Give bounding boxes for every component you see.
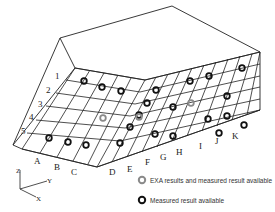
measured-point-ring-icon [99, 84, 105, 90]
row-labels: 1 2 3 4 5 [21, 71, 60, 136]
measured-point-ring-icon [170, 133, 176, 139]
axis-label-z: Z [16, 167, 20, 175]
row-label-3: 3 [38, 99, 43, 109]
axis-label-x: X [36, 195, 41, 203]
measured-point-ring-icon [153, 87, 159, 93]
measured-point-ring-icon [81, 78, 87, 84]
measured-point-ring-icon [144, 100, 150, 106]
measured-point-ring-icon [187, 78, 193, 84]
col-label-e: E [127, 164, 133, 174]
col-label-j: J [215, 136, 219, 146]
row-label-2: 2 [46, 85, 51, 95]
col-label-d: D [109, 167, 116, 177]
exa-points [100, 100, 194, 121]
legend-label-exa: EXA results and measured result availabl… [150, 177, 273, 184]
measured-point-ring-icon [216, 130, 222, 136]
row-label-4: 4 [29, 112, 34, 122]
gray-ring-icon [139, 177, 145, 183]
measured-point-ring-icon [117, 140, 123, 146]
measured-point-ring-icon [152, 131, 158, 137]
measured-point-ring-icon [224, 113, 230, 119]
axis-label-y: Y [47, 177, 52, 185]
legend: EXA results and measured result availabl… [139, 177, 273, 204]
measured-point-ring-icon [118, 88, 124, 94]
measured-point-ring-icon [241, 122, 247, 128]
measured-point-ring-icon [83, 142, 89, 148]
exa-point-ring-icon [100, 115, 106, 121]
col-label-i: I [199, 141, 202, 151]
measured-point-ring-icon [65, 139, 71, 145]
col-label-c: C [71, 167, 77, 177]
col-label-k: K [232, 131, 239, 141]
col-label-b: B [54, 162, 60, 172]
block-diagram: 1 2 3 4 5 A B C D E F G H I J K Z Y X EX… [0, 0, 275, 212]
col-label-f: F [145, 157, 150, 167]
row-label-5: 5 [21, 126, 26, 136]
legend-label-measured: Measured result available [150, 197, 224, 204]
col-label-g: G [160, 152, 167, 162]
measured-point-ring-icon [170, 104, 176, 110]
row-label-1: 1 [55, 71, 60, 81]
exa-point-ring-icon [188, 100, 194, 106]
col-label-a: A [34, 156, 41, 166]
measured-point-ring-icon [205, 116, 211, 122]
black-ring-icon [139, 197, 145, 203]
axis-triad [20, 170, 47, 197]
col-label-h: H [176, 147, 183, 157]
